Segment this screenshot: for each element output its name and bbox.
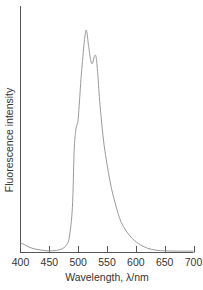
- x-tick-label: 400: [12, 256, 30, 268]
- y-axis-label: Fluorescence intensity: [3, 88, 15, 192]
- x-tick-label: 550: [98, 256, 116, 268]
- x-tick-label: 500: [69, 256, 87, 268]
- x-tick-label: 700: [185, 256, 203, 268]
- emission-curve: [21, 30, 194, 251]
- fluorescence-chart: [0, 0, 203, 290]
- axes: [20, 6, 194, 253]
- x-tick-label: 650: [156, 256, 174, 268]
- x-tick-label: 600: [127, 256, 145, 268]
- x-axis-label: Wavelength, λ/nm: [65, 271, 149, 283]
- x-tick-label: 450: [41, 256, 59, 268]
